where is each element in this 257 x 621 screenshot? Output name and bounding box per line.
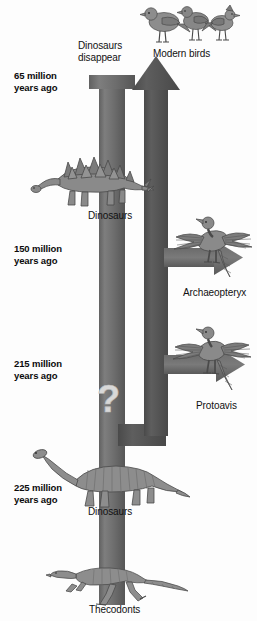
age-65-line1: 65 million — [14, 70, 57, 81]
caption-dinosaurs-mid: Dinosaurs — [88, 210, 132, 222]
age-65-line2: years ago — [14, 82, 57, 93]
caption-dinosaurs-disappear: Dinosaurs disappear — [78, 40, 122, 64]
arrow-layer — [0, 0, 257, 621]
question-mark-glyph: ? — [97, 378, 120, 420]
age-label-215: 215 million years ago — [14, 358, 62, 381]
timeline-arrows — [0, 0, 257, 621]
age-225-line1: 225 million — [14, 482, 62, 493]
age-150-line2: years ago — [14, 255, 57, 266]
dinosaurs-disappear-line1: Dinosaurs — [78, 40, 122, 51]
age-label-225: 225 million years ago — [14, 482, 62, 505]
age-215-line1: 215 million — [14, 358, 62, 369]
caption-dinosaurs-lower: Dinosaurs — [88, 506, 132, 518]
age-label-65: 65 million years ago — [14, 70, 57, 93]
caption-archaeopteryx: Archaeopteryx — [183, 287, 246, 299]
age-150-line1: 150 million — [14, 243, 62, 254]
dinosaurs-disappear-line2: disappear — [78, 52, 121, 63]
age-label-150: 150 million years ago — [14, 243, 62, 266]
caption-modern-birds: Modern birds — [153, 48, 210, 60]
age-225-line2: years ago — [14, 494, 57, 505]
modern-birds-illustration — [140, 2, 244, 48]
caption-protoavis: Protoavis — [196, 400, 237, 412]
age-215-line2: years ago — [14, 370, 57, 381]
archaeopteryx-illustration — [168, 207, 254, 279]
stegosaurus-illustration — [30, 145, 155, 210]
question-mark-marker: ? — [93, 378, 121, 424]
caption-thecodonts: Thecodonts — [89, 604, 140, 616]
protoavis-illustration — [168, 318, 254, 392]
thecodont-illustration — [48, 556, 188, 608]
evolution-figure: ? — [0, 0, 257, 621]
